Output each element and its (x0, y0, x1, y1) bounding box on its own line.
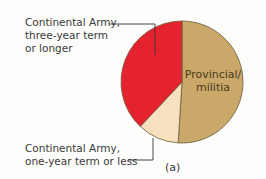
label-provincial: Provincial/ militia (183, 68, 243, 94)
figure-caption: (a) (165, 161, 180, 174)
label-one-year: Continental Army, one-year term or less (25, 142, 138, 168)
label-three-year: Continental Army, three-year term or lon… (25, 16, 120, 55)
